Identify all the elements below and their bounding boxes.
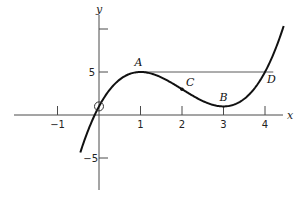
x-tick-label: 2 [179, 119, 185, 130]
point-label-c: C [186, 76, 195, 89]
x-tick-label: 4 [262, 119, 268, 130]
point-label-a: A [134, 56, 143, 69]
point-label-d: D [266, 73, 276, 86]
x-tick-label: 3 [220, 119, 226, 130]
function-graph: x y −11234 5−5 ABCD [0, 0, 303, 202]
y-tick-label: 5 [89, 67, 95, 78]
x-tick-label: 1 [137, 119, 143, 130]
point-label-b: B [219, 91, 228, 104]
y-tick-label: −5 [83, 153, 98, 164]
x-axis-label: x [287, 109, 294, 122]
x-ticks: −11234 [50, 106, 268, 130]
x-tick-label: −1 [50, 119, 65, 130]
point-marker-c [180, 87, 184, 91]
labeled-points: ABCD [134, 56, 277, 104]
y-axis-label: y [95, 3, 103, 16]
